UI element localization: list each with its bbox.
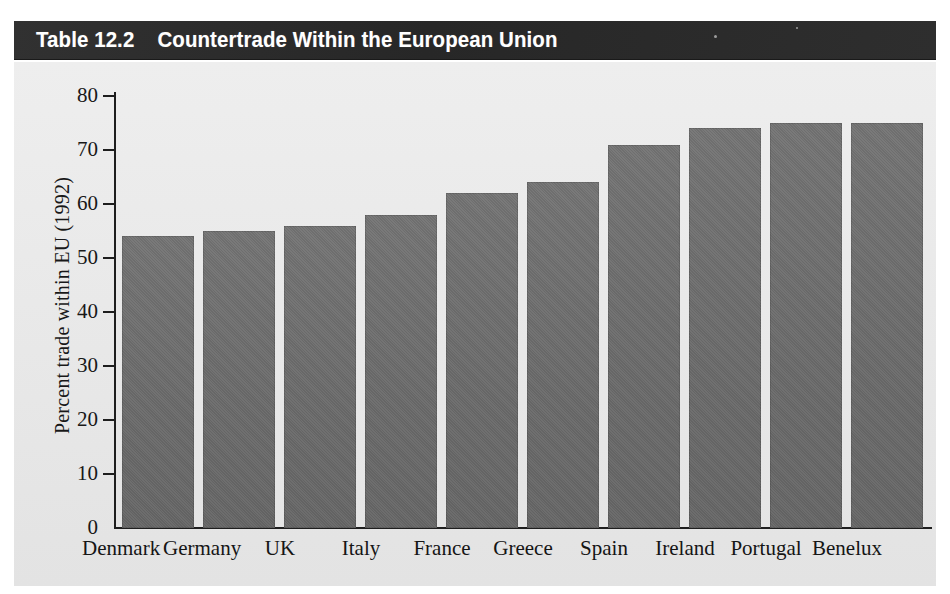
scan-speck: [796, 27, 798, 29]
y-tick-label-80: 80: [28, 83, 98, 108]
figure-title: Table 12.2 Countertrade Within the Europ…: [36, 27, 558, 53]
bar-germany: [203, 231, 275, 528]
x-label-denmark: Denmark: [82, 536, 154, 561]
bar-italy: [365, 215, 437, 528]
y-tick-10: [103, 473, 115, 475]
bar-ireland: [689, 128, 761, 528]
y-tick-60: [103, 203, 115, 205]
y-tick-30: [103, 365, 115, 367]
bar-benelux: [851, 123, 923, 528]
y-tick-40: [103, 311, 115, 313]
x-label-ireland: Ireland: [649, 536, 721, 561]
bar-spain: [608, 145, 680, 528]
x-label-uk: UK: [244, 536, 316, 561]
scan-speck: [714, 35, 717, 38]
y-axis-title: Percent trade within EU (1992): [51, 106, 74, 506]
bar-greece: [527, 182, 599, 528]
y-tick-80: [103, 95, 115, 97]
x-label-italy: Italy: [325, 536, 397, 561]
x-label-benelux: Benelux: [811, 536, 883, 561]
x-label-germany: Germany: [163, 536, 235, 561]
y-tick-50: [103, 257, 115, 259]
bar-portugal: [770, 123, 842, 528]
bar-uk: [284, 226, 356, 528]
bar-denmark: [122, 236, 194, 528]
bar-group: [116, 62, 932, 586]
chart-panel: 80 70 60 50 40 30 20 10 0 Percent trade …: [14, 62, 936, 586]
x-label-greece: Greece: [487, 536, 559, 561]
x-label-france: France: [406, 536, 478, 561]
x-label-portugal: Portugal: [730, 536, 802, 561]
y-tick-70: [103, 149, 115, 151]
y-tick-20: [103, 419, 115, 421]
bar-france: [446, 193, 518, 528]
x-label-spain: Spain: [568, 536, 640, 561]
figure-container: Table 12.2 Countertrade Within the Europ…: [0, 0, 950, 594]
plot-area: 80 70 60 50 40 30 20 10 0 Percent trade …: [14, 62, 936, 586]
figure-title-band: Table 12.2 Countertrade Within the Europ…: [14, 21, 936, 59]
